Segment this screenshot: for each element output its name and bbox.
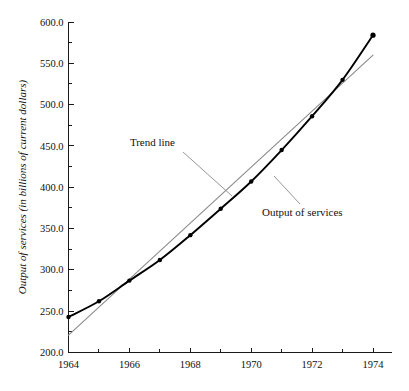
y-axis: 200.0250.0300.0350.0400.0450.0500.0550.0… — [16, 17, 74, 359]
y-tick-label: 250.0 — [40, 306, 64, 317]
data-point-marker — [158, 258, 162, 262]
x-tick-label: 1974 — [363, 359, 385, 370]
chart-figure: 200.0250.0300.0350.0400.0450.0500.0550.0… — [0, 0, 409, 391]
data-point-marker — [188, 233, 192, 237]
x-tick-label: 1964 — [58, 359, 80, 370]
x-tick-label: 1966 — [119, 359, 140, 370]
x-tick-label: 1972 — [302, 359, 323, 370]
data-point-marker — [279, 148, 283, 152]
y-axis-major-ticks — [69, 22, 74, 353]
y-axis-title: Output of services (in billions of curre… — [16, 79, 29, 294]
output-of-services-markers — [66, 33, 375, 320]
annotation-trend-line: Trend line — [130, 136, 175, 148]
plot-area — [66, 33, 375, 336]
output-of-services-series — [69, 35, 374, 317]
y-tick-label: 300.0 — [40, 264, 64, 275]
data-point-marker — [249, 179, 253, 183]
x-tick-label: 1970 — [241, 359, 262, 370]
trend-line-series — [69, 55, 374, 335]
data-point-marker — [127, 278, 131, 282]
annotations: Trend line Output of services — [130, 136, 343, 218]
data-point-marker — [370, 33, 375, 38]
x-axis-minor-ticks — [99, 349, 343, 353]
trend-line-leader — [183, 152, 232, 196]
y-tick-label: 600.0 — [40, 17, 64, 28]
annotation-output-of-services: Output of services — [262, 206, 343, 218]
chart-canvas: 200.0250.0300.0350.0400.0450.0500.0550.0… — [0, 0, 409, 391]
y-axis-tick-labels: 200.0250.0300.0350.0400.0450.0500.0550.0… — [40, 17, 64, 359]
y-tick-label: 450.0 — [40, 141, 64, 152]
y-tick-label: 550.0 — [40, 58, 64, 69]
y-tick-label: 200.0 — [40, 347, 64, 358]
data-point-marker — [66, 315, 70, 319]
x-axis: 196419661968197019721974 — [58, 348, 392, 370]
data-point-marker — [340, 78, 344, 82]
x-axis-tick-labels: 196419661968197019721974 — [58, 359, 384, 370]
data-point-marker — [97, 299, 101, 303]
data-point-marker — [310, 114, 314, 118]
y-tick-label: 400.0 — [40, 182, 64, 193]
x-tick-label: 1968 — [180, 359, 201, 370]
output-of-services-leader — [274, 176, 300, 204]
data-point-marker — [219, 207, 223, 211]
y-tick-label: 500.0 — [40, 99, 64, 110]
y-tick-label: 350.0 — [40, 223, 64, 234]
